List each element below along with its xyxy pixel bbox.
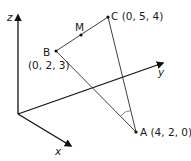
- point-a-label: A (4, 2, 0): [140, 127, 191, 138]
- x-axis-label: x: [55, 146, 61, 157]
- point-m-label: M: [75, 22, 84, 33]
- point-m: [79, 33, 82, 36]
- y-axis-label: y: [158, 67, 164, 78]
- point-a: [134, 130, 137, 133]
- point-c-label: C (0, 5, 4): [111, 11, 163, 22]
- point-b: [54, 49, 57, 52]
- x-axis: [18, 114, 71, 146]
- angle-bac-arc: [121, 111, 131, 117]
- point-b-label: B: [43, 47, 50, 58]
- point-c: [106, 15, 109, 18]
- z-axis-label: z: [7, 12, 13, 23]
- point-b-coords: (0, 2, 3): [28, 60, 70, 71]
